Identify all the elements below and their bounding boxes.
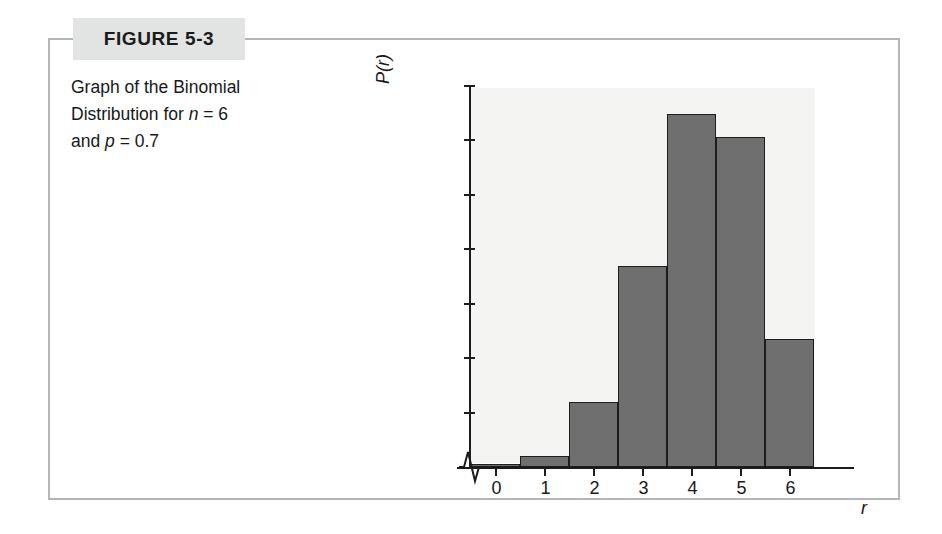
caption-line-1: Graph of the Binomial [71,74,321,101]
bar [716,137,765,467]
bar [569,402,618,467]
caption-line-2-suffix: = 6 [198,104,228,124]
figure-number-label: FIGURE 5-3 [104,28,215,50]
caption-variable-n: n [189,104,199,124]
figure-caption: Graph of the Binomial Distribution for n… [71,74,321,155]
x-axis-tick-label: 3 [629,478,659,499]
y-axis-line [469,86,471,469]
caption-line-3: and p = 0.7 [71,128,321,155]
caption-line-2: Distribution for n = 6 [71,101,321,128]
x-axis-tick-label: 6 [776,478,806,499]
y-axis-label-text: P(r) [373,54,393,84]
x-axis-tick-label: 1 [531,478,561,499]
figure-number-tab: FIGURE 5-3 [73,18,245,60]
bar [618,266,667,467]
x-axis-tick-label: 5 [727,478,757,499]
caption-line-3-suffix: = 0.7 [115,131,159,151]
caption-line-1-text: Graph of the Binomial [71,77,240,97]
bar [765,339,814,467]
caption-line-3-prefix: and [71,131,105,151]
y-axis-label: P(r) [373,54,394,84]
x-axis-label-text: r [861,498,867,518]
x-axis-label: r [861,498,867,519]
bar [520,456,569,467]
x-axis-tick-label: 4 [678,478,708,499]
binomial-distribution-chart: P(r) 0.050.100.150.200.250.300.35 012345… [385,66,885,486]
x-axis-tick-label: 2 [580,478,610,499]
caption-variable-p: p [105,131,115,151]
caption-line-2-prefix: Distribution for [71,104,189,124]
axis-break-icon [459,450,493,486]
bar [667,114,716,467]
x-axis-line [457,467,854,469]
